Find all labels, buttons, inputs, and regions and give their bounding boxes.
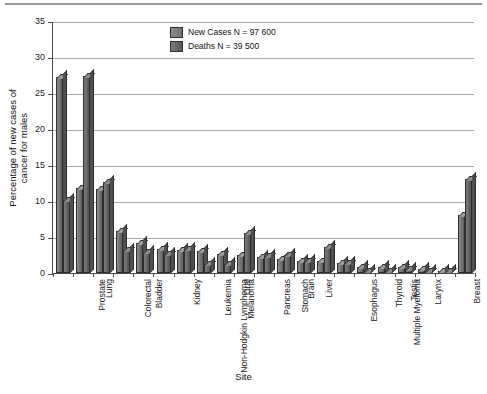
bar-new-cases[interactable] [136,22,143,273]
bar-new-cases[interactable] [418,22,425,273]
x-axis-tick [194,273,195,277]
bar-rect [445,271,452,273]
bar-deaths[interactable] [63,22,70,273]
bar-new-cases[interactable] [357,22,364,273]
x-axis-label: Lung [105,279,114,298]
bar-deaths[interactable] [164,22,171,273]
x-axis-tick [93,273,94,277]
bar-rect [76,188,83,273]
bar-deaths[interactable] [204,22,211,273]
bar-deaths[interactable] [83,22,90,273]
bar-group [274,22,294,273]
x-axis-tick [354,273,355,277]
bar-rect [83,76,90,273]
bar-rect [217,254,224,273]
bar-group [415,22,435,273]
bar-new-cases[interactable] [56,22,63,273]
bar-rect [197,251,204,273]
x-axis-tick [415,273,416,277]
bar-rect [177,250,184,273]
bar-rect [425,271,432,273]
y-axis-tick [48,22,53,23]
bar-rect [63,200,70,273]
bar-deaths[interactable] [405,22,412,273]
bar-new-cases[interactable] [197,22,204,273]
x-axis-tick [395,273,396,277]
bar-deaths[interactable] [184,22,191,273]
bar-deaths[interactable] [465,22,472,273]
bar-deaths[interactable] [324,22,331,273]
bar-group [375,22,395,273]
y-axis-tick-label: 10 [19,197,45,206]
bar-deaths[interactable] [123,22,130,273]
x-axis-label: Pancreas [283,279,292,315]
bar-deaths[interactable] [364,22,371,273]
x-axis-label: Kidney [193,279,202,305]
bar-new-cases[interactable] [257,22,264,273]
y-axis-tick-label: 25 [19,89,45,98]
y-axis-title-line1: Percentage of new cases of [7,89,18,206]
bar-group [455,22,475,273]
legend-swatch-new-cases [170,27,183,38]
bar-group [395,22,415,273]
x-axis-label: Brain [307,279,316,299]
bar-rect [324,247,331,273]
bar-group [234,22,254,273]
x-axis-tick [475,273,476,277]
plot-area [53,22,474,273]
chart-figure: Percentage of new cases of cancer for ma… [0,0,487,394]
bar-new-cases[interactable] [237,22,244,273]
y-axis-title-line2: cancer for males [18,89,29,206]
bar-group [73,22,93,273]
bar-group [314,22,334,273]
bar-new-cases[interactable] [317,22,324,273]
legend-item-deaths: Deaths N = 39 500 [170,41,276,52]
x-axis-tick [455,273,456,277]
bar-group [294,22,314,273]
y-axis-title: Percentage of new cases of cancer for ma… [7,89,29,206]
bar-deaths[interactable] [304,22,311,273]
bar-new-cases[interactable] [96,22,103,273]
bar-deaths[interactable] [264,22,271,273]
bar-new-cases[interactable] [297,22,304,273]
x-axis-tick [375,273,376,277]
bar-new-cases[interactable] [398,22,405,273]
bar-new-cases[interactable] [438,22,445,273]
x-axis-label: Breast [472,279,481,304]
y-axis-tick [48,58,53,59]
bar-group [254,22,274,273]
bar-rect [277,259,284,273]
bar-new-cases[interactable] [177,22,184,273]
bar-deaths[interactable] [445,22,452,273]
bar-deaths[interactable] [224,22,231,273]
bar-new-cases[interactable] [277,22,284,273]
bar-new-cases[interactable] [458,22,465,273]
bar-new-cases[interactable] [157,22,164,273]
x-axis-label: Liver [326,279,335,297]
bar-deaths[interactable] [103,22,110,273]
bar-group [435,22,455,273]
bar-deaths[interactable] [344,22,351,273]
bar-rect [136,243,143,273]
bar-new-cases[interactable] [76,22,83,273]
bar-group [93,22,113,273]
bar-deaths[interactable] [143,22,150,273]
x-axis-label: Leukemia [223,279,232,316]
bar-deaths[interactable] [244,22,251,273]
bar-rect [378,267,385,273]
bar-rect [257,257,264,273]
y-axis-tick-label: 20 [19,125,45,134]
bar-deaths[interactable] [425,22,432,273]
legend-label-deaths: Deaths N = 39 500 [188,42,259,51]
bar-new-cases[interactable] [337,22,344,273]
bar-new-cases[interactable] [378,22,385,273]
y-axis-tick-label: 5 [19,233,45,242]
bar-deaths[interactable] [284,22,291,273]
bar-new-cases[interactable] [116,22,123,273]
bar-group [174,22,194,273]
bar-deaths[interactable] [385,22,392,273]
x-axis-label: Thyroid [396,279,405,307]
bar-rect [385,271,392,273]
bar-rect [123,250,130,273]
bar-new-cases[interactable] [217,22,224,273]
